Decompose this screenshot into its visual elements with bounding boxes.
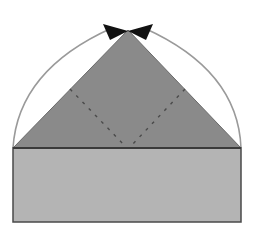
- diagram-canvas: [0, 0, 260, 247]
- geometry-figure: [0, 0, 260, 247]
- base-rectangle: [13, 148, 241, 222]
- top-triangle: [13, 30, 241, 148]
